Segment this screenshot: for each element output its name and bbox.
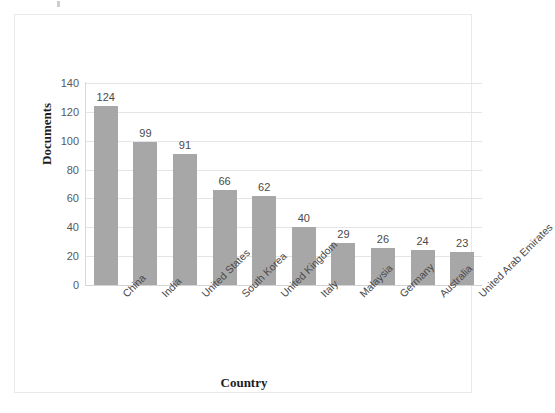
bar[interactable] [133, 142, 157, 285]
bar-slot: 91 [165, 83, 205, 285]
bar-slot: 23 [442, 83, 482, 285]
bar-value-label: 124 [97, 91, 115, 103]
bar-slot: 26 [363, 83, 403, 285]
y-axis-tick-label: 100 [23, 135, 79, 147]
bar[interactable] [173, 154, 197, 285]
y-axis-tick-label: 20 [23, 250, 79, 262]
y-axis-tick-label: 0 [23, 279, 79, 291]
bar-value-label: 26 [377, 233, 389, 245]
bar-value-label: 23 [456, 237, 468, 249]
y-axis-tick-label: 120 [23, 106, 79, 118]
bar-slot: 24 [403, 83, 443, 285]
y-axis-tick-labels: 020406080100120140 [21, 83, 79, 285]
x-axis-title: Country [15, 375, 473, 391]
bar-value-label: 66 [218, 175, 230, 187]
chart-frame: Documents 020406080100120140 12499916662… [14, 14, 472, 393]
bar-slot: 124 [86, 83, 126, 285]
bar-slot: 99 [126, 83, 166, 285]
image-artifact [57, 1, 60, 7]
x-axis-category-labels: ChinaIndiaUnited StatesSouth KoreaUnited… [86, 287, 482, 365]
x-axis-category-label: United Arab Emirates [476, 221, 555, 300]
bar-value-label: 91 [179, 139, 191, 151]
bar[interactable] [94, 106, 118, 285]
bar-value-label: 99 [139, 127, 151, 139]
y-axis-tick-label: 40 [23, 221, 79, 233]
y-axis-tick-label: 80 [23, 164, 79, 176]
bar-value-label: 24 [416, 235, 428, 247]
bar-value-label: 29 [337, 228, 349, 240]
y-axis-tick-label: 60 [23, 192, 79, 204]
bar-value-label: 40 [298, 212, 310, 224]
y-axis-tick-label: 140 [23, 77, 79, 89]
bar-value-label: 62 [258, 181, 270, 193]
